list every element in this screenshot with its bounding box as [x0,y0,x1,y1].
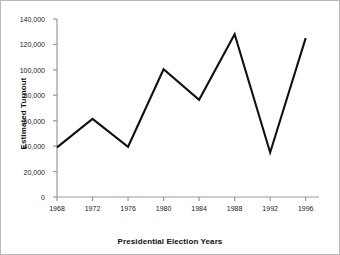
x-tick-label: 1984 [179,205,219,212]
x-tick-label: 1968 [37,205,77,212]
x-tick-label: 1996 [286,205,326,212]
y-axis-title: Estimated Turnout [19,44,28,184]
chart-screenshot: 020,00040,00060,00080,000100,000120,0001… [0,0,340,255]
y-tick-label: 140,000 [5,16,45,23]
x-tick-label: 1976 [108,205,148,212]
x-tick-label: 1980 [144,205,184,212]
x-tick-label: 1972 [73,205,113,212]
data-series-line [57,34,306,152]
axis-lines [57,19,319,197]
line-chart: 020,00040,00060,00080,000100,000120,0001… [1,1,339,254]
x-axis-tick-labels: 19681972197619801984198819921996 [1,199,339,219]
x-tick-label: 1992 [250,205,290,212]
x-tick-label: 1988 [215,205,255,212]
x-axis-title: Presidential Election Years [1,237,339,246]
